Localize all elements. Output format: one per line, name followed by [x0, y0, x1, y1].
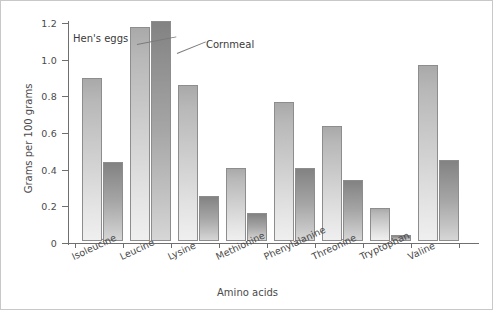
x-tick-4 [267, 243, 268, 248]
x-tick-0 [75, 243, 76, 248]
annotation-hens-eggs: Hen's eggs [73, 33, 128, 44]
x-axis-line [68, 243, 479, 244]
bar-threonine-hen-s-eggs [322, 126, 342, 242]
bar-lysine-cornmeal [199, 196, 219, 241]
y-tick-0 [62, 243, 68, 244]
bar-valine-cornmeal [439, 160, 459, 241]
x-tick-1 [123, 243, 124, 248]
bar-tryptophan-hen-s-eggs [370, 208, 390, 241]
y-tick-label-0: 0 [17, 238, 57, 249]
x-tick-2 [171, 243, 172, 248]
bar-leucine-hen-s-eggs [130, 27, 150, 242]
bar-leucine-cornmeal [151, 21, 171, 241]
y-tick-label-6: 1.2 [17, 18, 57, 29]
y-tick-label-1: 0.2 [17, 201, 57, 212]
annotation-cornmeal: Cornmeal [206, 39, 254, 50]
y-tick-3 [62, 133, 68, 134]
bar-methionine-hen-s-eggs [226, 168, 246, 241]
x-tick-5 [315, 243, 316, 248]
x-tick-6 [363, 243, 364, 248]
bar-chart-figure: Grams per 100 grams 00.20.40.60.81.01.2 … [0, 0, 493, 310]
bar-isoleucine-hen-s-eggs [82, 78, 102, 241]
bar-isoleucine-cornmeal [103, 162, 123, 241]
y-tick-label-4: 0.8 [17, 91, 57, 102]
x-tick-end [459, 243, 460, 248]
y-tick-label-2: 0.4 [17, 164, 57, 175]
x-axis-title: Amino acids [1, 287, 493, 298]
y-tick-4 [62, 96, 68, 97]
y-tick-1 [62, 206, 68, 207]
y-tick-label-3: 0.6 [17, 128, 57, 139]
y-tick-label-5: 1.0 [17, 54, 57, 65]
y-tick-5 [62, 60, 68, 61]
bar-lysine-hen-s-eggs [178, 85, 198, 241]
y-axis-line [68, 21, 69, 245]
y-tick-6 [62, 23, 68, 24]
x-tick-3 [219, 243, 220, 248]
bar-valine-hen-s-eggs [418, 65, 438, 241]
leader-line-cornmeal [177, 41, 206, 54]
y-axis-title: Grams per 100 grams [23, 59, 34, 219]
x-tick-7 [411, 243, 412, 248]
bar-phenylalanine-hen-s-eggs [274, 102, 294, 241]
y-tick-2 [62, 170, 68, 171]
